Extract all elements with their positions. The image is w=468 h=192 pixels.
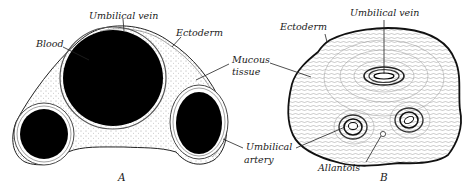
allantois-duct bbox=[380, 131, 385, 136]
label-blood: Blood bbox=[35, 38, 64, 49]
label-mucous-line1: Mucous bbox=[231, 54, 270, 65]
figure-a: Umbilical vein Blood Ectoderm Mucous tis… bbox=[13, 10, 292, 183]
umbilical-artery-left-b bbox=[339, 115, 367, 139]
umbilical-vein-a bbox=[60, 27, 166, 129]
umbilical-artery-left-a bbox=[14, 103, 74, 165]
label-umbilical-vein-b: Umbilical vein bbox=[350, 7, 419, 18]
label-artery-line1: Umbilical bbox=[246, 141, 292, 152]
figure-b: Umbilical vein Ectoderm Allantois B bbox=[270, 7, 461, 183]
cord-b-outline bbox=[288, 28, 461, 166]
label-ectoderm-b: Ectoderm bbox=[279, 21, 327, 32]
label-ectoderm-a: Ectoderm bbox=[175, 27, 223, 38]
umbilical-artery-right-b bbox=[395, 108, 423, 132]
umbilical-artery-right-a bbox=[170, 85, 228, 159]
umbilical-cord-cross-section-diagram: Umbilical vein Blood Ectoderm Mucous tis… bbox=[0, 0, 468, 192]
figure-b-caption: B bbox=[379, 171, 388, 183]
label-mucous-line2: tissue bbox=[232, 66, 261, 77]
label-umbilical-vein-a: Umbilical vein bbox=[89, 10, 158, 21]
label-artery-line2: artery bbox=[244, 154, 274, 165]
label-allantois: Allantois bbox=[317, 162, 360, 173]
figure-a-caption: A bbox=[117, 171, 126, 183]
